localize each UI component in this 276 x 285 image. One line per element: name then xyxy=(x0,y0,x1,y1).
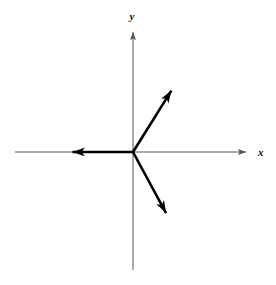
y-axis-label: y xyxy=(128,10,135,22)
vector-diagram-figure: x y xyxy=(0,0,276,285)
vector-lower-right xyxy=(133,152,166,213)
coordinate-plane-svg: x y xyxy=(0,0,276,285)
x-axis-label: x xyxy=(257,146,264,158)
vector-upper-right xyxy=(133,91,171,152)
